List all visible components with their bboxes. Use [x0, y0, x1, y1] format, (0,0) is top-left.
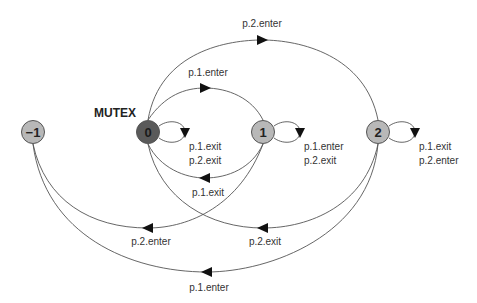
arrow-left-icon	[257, 223, 268, 233]
state-node-neg1[interactable]: −1	[21, 120, 45, 144]
edge-label-1-to-0: p.1.exit	[192, 187, 224, 199]
edge-label-0-to-1: p.1.enter	[188, 67, 227, 79]
self-loop-0-labels: p.1.exit p.2.exit	[189, 140, 221, 168]
edge-label-1-to-neg1: p.2.enter	[131, 236, 170, 248]
self-loop-label: p.1.exit	[189, 140, 221, 154]
edge-0-to-1	[148, 88, 263, 120]
edge-label-2-to-neg1: p.1.enter	[189, 282, 228, 294]
arrow-left-icon	[201, 267, 212, 277]
self-loop-2-labels: p.1.exit p.2.enter	[419, 140, 458, 168]
arrow-down-icon	[295, 128, 305, 138]
edge-label-0-to-2: p.2.enter	[242, 18, 281, 30]
arrow-left-icon	[142, 223, 153, 233]
self-loop-0	[159, 122, 185, 143]
arrow-down-icon	[180, 128, 190, 138]
state-node-1[interactable]: 1	[251, 120, 275, 144]
mutex-title: MUTEX	[94, 106, 136, 120]
edge-0-to-2	[148, 40, 378, 120]
edge-label-2-to-0: p.2.exit	[249, 236, 281, 248]
edge-1-to-neg1	[33, 144, 263, 228]
arrow-right-icon	[200, 83, 211, 93]
self-loop-label: p.1.exit	[419, 140, 458, 154]
state-node-0[interactable]: 0	[136, 120, 160, 144]
arrow-down-icon	[410, 128, 420, 138]
self-loop-1	[274, 122, 300, 143]
state-diagram-edges	[0, 0, 477, 303]
edge-2-to-0	[148, 144, 378, 228]
self-loop-label: p.2.enter	[419, 154, 458, 168]
self-loop-2	[389, 122, 415, 143]
self-loop-label: p.1.enter	[304, 140, 343, 154]
self-loop-label: p.2.exit	[189, 154, 221, 168]
self-loop-label: p.2.exit	[304, 154, 343, 168]
state-node-2[interactable]: 2	[366, 120, 390, 144]
arrow-right-icon	[257, 35, 268, 45]
arrow-left-icon	[199, 173, 210, 183]
self-loop-1-labels: p.1.enter p.2.exit	[304, 140, 343, 168]
